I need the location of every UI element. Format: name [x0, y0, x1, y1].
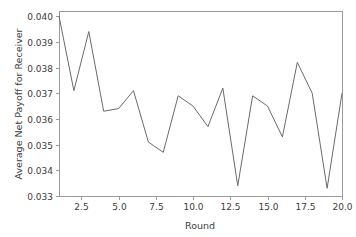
y-tick-labels: 0.0330.0340.0350.0360.0370.0380.0390.040: [27, 12, 53, 202]
x-tick-label: 17.5: [295, 202, 315, 212]
x-tick-label: 5.0: [112, 202, 127, 212]
y-tick-label: 0.040: [27, 12, 53, 22]
figure-canvas: 2.55.07.510.012.515.017.520.0 0.0330.034…: [0, 0, 356, 237]
x-axis-label: Round: [185, 220, 215, 231]
y-tick-label: 0.036: [27, 115, 53, 125]
x-tick-labels: 2.55.07.510.012.515.017.520.0: [74, 202, 352, 212]
x-tick-label: 15.0: [258, 202, 278, 212]
line-chart: 2.55.07.510.012.515.017.520.0 0.0330.034…: [0, 0, 356, 237]
y-tick-label: 0.033: [27, 192, 53, 202]
y-tick-label: 0.035: [27, 141, 53, 151]
x-tick-label: 12.5: [220, 202, 240, 212]
y-tick-label: 0.038: [27, 64, 53, 74]
x-tick-label: 20.0: [332, 202, 352, 212]
x-tick-label: 2.5: [74, 202, 88, 212]
y-tick-label: 0.039: [27, 38, 53, 48]
plot-area-background: [59, 11, 342, 196]
y-axis-label: Average Net Payoff for Receiver: [13, 28, 24, 179]
y-tick-marks: [56, 17, 60, 197]
y-tick-label: 0.034: [27, 166, 53, 176]
x-tick-label: 10.0: [183, 202, 203, 212]
x-tick-label: 7.5: [149, 202, 163, 212]
y-tick-label: 0.037: [27, 89, 53, 99]
